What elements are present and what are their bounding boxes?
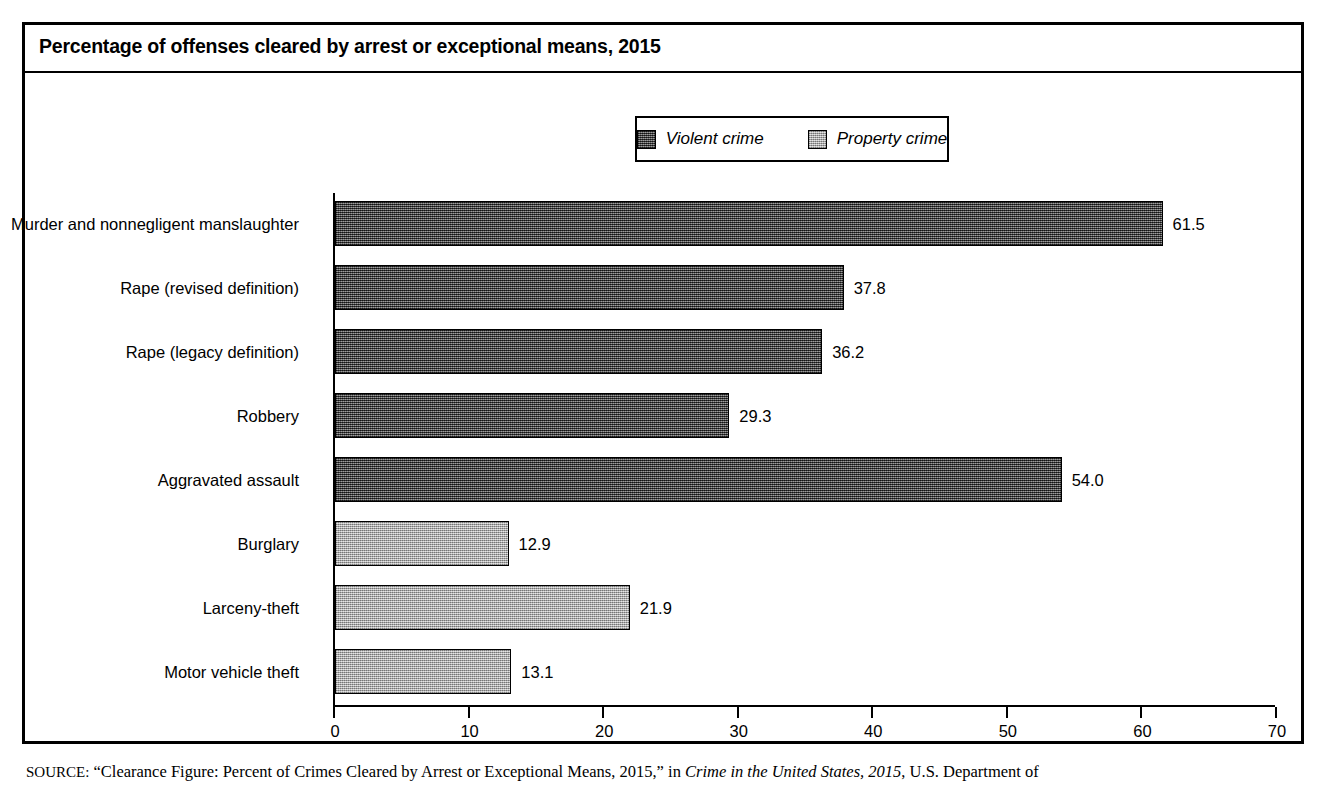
bar-row: Motor vehicle theft13.1: [25, 641, 1301, 703]
bar-value-label: 54.0: [1072, 449, 1104, 511]
bar-row: Larceny-theft21.9: [25, 577, 1301, 639]
x-axis-tick: [1275, 707, 1277, 718]
bar-row: Rape (revised definition)37.8: [25, 257, 1301, 319]
bar[interactable]: [335, 649, 511, 694]
bar[interactable]: [335, 201, 1163, 246]
x-axis-tick: [602, 707, 604, 718]
bar-value-label: 21.9: [640, 577, 672, 639]
bar[interactable]: [335, 585, 630, 630]
source-note-prefix: SOURCE:: [26, 764, 89, 780]
category-label: Larceny-theft: [0, 577, 299, 639]
plot-area: Murder and nonnegligent manslaughter61.5…: [25, 25, 1301, 741]
source-note: SOURCE: “Clearance Figure: Percent of Cr…: [26, 762, 1316, 782]
bar[interactable]: [335, 457, 1062, 502]
category-label: Aggravated assault: [0, 449, 299, 511]
bar-row: Burglary12.9: [25, 513, 1301, 575]
category-label: Motor vehicle theft: [0, 641, 299, 703]
x-axis-tick-label: 10: [450, 722, 490, 741]
x-axis-tick-label: 0: [315, 722, 355, 741]
category-label: Robbery: [0, 385, 299, 447]
x-axis-tick: [333, 707, 335, 718]
x-axis-tick-label: 70: [1257, 722, 1297, 741]
bar-value-label: 37.8: [854, 257, 886, 319]
x-axis-tick: [1006, 707, 1008, 718]
bar-value-label: 12.9: [519, 513, 551, 575]
source-note-part2: , U.S. Department of: [901, 762, 1038, 781]
category-label: Rape (legacy definition): [0, 321, 299, 383]
bar-row: Rape (legacy definition)36.2: [25, 321, 1301, 383]
x-axis-tick-label: 20: [584, 722, 624, 741]
bar-row: Murder and nonnegligent manslaughter61.5: [25, 193, 1301, 255]
category-label: Murder and nonnegligent manslaughter: [0, 193, 299, 255]
x-axis-tick: [871, 707, 873, 718]
bar[interactable]: [335, 329, 822, 374]
source-note-part1: “Clearance Figure: Percent of Crimes Cle…: [89, 762, 685, 781]
source-note-title: Crime in the United States, 2015: [685, 762, 901, 781]
category-label: Burglary: [0, 513, 299, 575]
x-axis-tick: [737, 707, 739, 718]
x-axis-tick-label: 30: [719, 722, 759, 741]
bar-value-label: 13.1: [521, 641, 553, 703]
figure-frame: Percentage of offenses cleared by arrest…: [22, 22, 1304, 744]
bar-row: Robbery29.3: [25, 385, 1301, 447]
x-axis-tick: [1140, 707, 1142, 718]
bar-value-label: 29.3: [739, 385, 771, 447]
category-label: Rape (revised definition): [0, 257, 299, 319]
bar-row: Aggravated assault54.0: [25, 449, 1301, 511]
x-axis-tick-label: 50: [988, 722, 1028, 741]
bar-value-label: 36.2: [832, 321, 864, 383]
bar[interactable]: [335, 521, 509, 566]
x-axis-tick-label: 40: [853, 722, 893, 741]
bar[interactable]: [335, 393, 729, 438]
x-axis-tick-label: 60: [1122, 722, 1162, 741]
bar-value-label: 61.5: [1173, 193, 1205, 255]
value-axis-line: [333, 705, 1275, 707]
bar[interactable]: [335, 265, 844, 310]
x-axis-tick: [468, 707, 470, 718]
